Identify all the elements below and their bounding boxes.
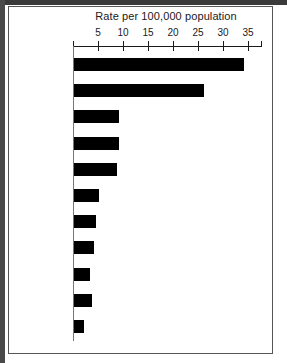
bar[interactable] xyxy=(74,163,117,176)
bar[interactable] xyxy=(74,320,84,333)
bar-category-label: Spain xyxy=(0,137,74,148)
bar-row[interactable]: Japan xyxy=(0,110,287,123)
x-tick-label: 30 xyxy=(213,27,233,38)
bar-category-label: Sweden xyxy=(0,190,74,201)
bar-row[interactable]: Canada xyxy=(0,320,287,333)
x-tick-mark xyxy=(223,41,224,51)
x-tick-mark xyxy=(173,41,174,51)
bar-row[interactable]: Senegal xyxy=(0,84,287,97)
bar-row[interactable]: Italy xyxy=(0,163,287,176)
x-axis-right-cap xyxy=(261,41,262,47)
x-tick-mark xyxy=(123,41,124,51)
bar-category-label: Norway xyxy=(0,268,74,279)
bar[interactable] xyxy=(74,137,119,150)
x-tick-label: 10 xyxy=(113,27,133,38)
image-frame: Rate per 100,000 population 510152025303… xyxy=(0,0,287,363)
bar-row[interactable]: Hong Kong xyxy=(0,58,287,71)
bar-category-label: Hong Kong xyxy=(0,59,74,70)
bar-row[interactable]: Sweden xyxy=(0,189,287,202)
bar-row[interactable]: USA xyxy=(0,241,287,254)
bar-row[interactable]: Finland xyxy=(0,215,287,228)
bar-category-label: Australia xyxy=(0,294,74,305)
x-tick-mark xyxy=(248,41,249,51)
x-tick-mark xyxy=(148,41,149,51)
bar-row[interactable]: Spain xyxy=(0,137,287,150)
chart-plot-area: 5101520253035 Hong KongSenegalJapanSpain… xyxy=(0,0,287,363)
bar[interactable] xyxy=(74,241,94,254)
bar-category-label: Senegal xyxy=(0,85,74,96)
x-axis-line xyxy=(73,46,262,47)
bar[interactable] xyxy=(74,268,90,281)
bar-category-label: Italy xyxy=(0,163,74,174)
x-tick-label: 15 xyxy=(138,27,158,38)
x-tick-mark xyxy=(198,41,199,51)
bar[interactable] xyxy=(74,58,244,71)
bar-category-label: USA xyxy=(0,242,74,253)
x-tick-label: 25 xyxy=(188,27,208,38)
bar[interactable] xyxy=(74,110,119,123)
bar[interactable] xyxy=(74,294,92,307)
bar[interactable] xyxy=(74,189,99,202)
x-tick-label: 35 xyxy=(238,27,258,38)
x-tick-label: 20 xyxy=(163,27,183,38)
bar-category-label: Japan xyxy=(0,111,74,122)
bar[interactable] xyxy=(74,215,96,228)
bar-category-label: Canada xyxy=(0,321,74,332)
x-tick-label: 5 xyxy=(88,27,108,38)
bar[interactable] xyxy=(74,84,204,97)
bar-row[interactable]: Australia xyxy=(0,294,287,307)
bar-category-label: Finland xyxy=(0,216,74,227)
bar-row[interactable]: Norway xyxy=(0,268,287,281)
x-tick-mark xyxy=(98,41,99,51)
